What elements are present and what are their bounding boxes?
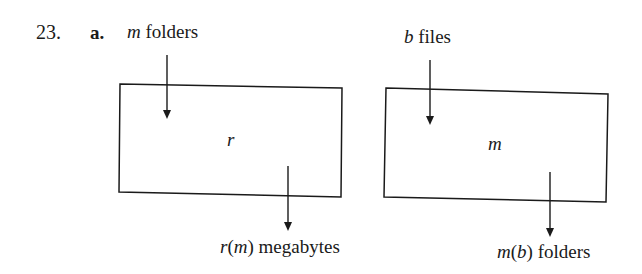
input-label-right: b files bbox=[404, 27, 451, 46]
function-diagram-figure: 23. a. m folders r r(m) megabytes b file… bbox=[0, 0, 642, 274]
output-argument: m bbox=[234, 236, 248, 257]
input-unit: folders bbox=[141, 21, 199, 42]
input-label-left: m folders bbox=[127, 22, 198, 41]
problem-number: 23. bbox=[36, 22, 61, 42]
input-unit: files bbox=[414, 26, 451, 47]
input-variable: b bbox=[404, 26, 414, 47]
output-unit: megabytes bbox=[254, 236, 340, 257]
problem-part: a. bbox=[90, 23, 104, 42]
output-label-left: r(m) megabytes bbox=[220, 237, 340, 256]
output-function: m bbox=[497, 241, 511, 262]
output-argument: b bbox=[517, 241, 527, 262]
arrowhead-icon bbox=[426, 116, 434, 125]
function-name-r: r bbox=[227, 130, 234, 149]
arrowhead-icon bbox=[163, 110, 171, 119]
output-unit: folders bbox=[533, 241, 591, 262]
input-variable: m bbox=[127, 21, 141, 42]
arrowhead-icon bbox=[284, 222, 292, 231]
output-label-right: m(b) folders bbox=[497, 242, 590, 261]
arrowhead-icon bbox=[546, 228, 554, 237]
function-name-m: m bbox=[488, 134, 502, 153]
